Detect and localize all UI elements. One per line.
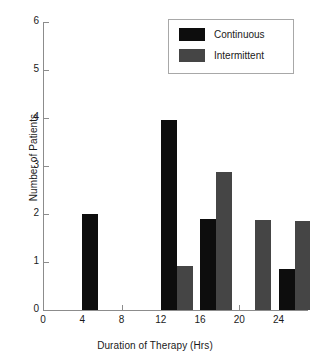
y-tick: 3 <box>44 166 49 167</box>
y-tick-label: 5 <box>33 63 39 74</box>
legend-item-continuous: Continuous <box>179 28 265 41</box>
y-tick: 2 <box>44 214 49 215</box>
legend-swatch-intermittent <box>179 49 205 62</box>
x-tick-label: 12 <box>146 314 176 325</box>
bar <box>200 219 216 310</box>
legend: Continuous Intermittent <box>168 19 294 74</box>
legend-label-intermittent: Intermittent <box>214 50 264 61</box>
x-tick <box>122 305 123 310</box>
bar <box>216 172 232 310</box>
y-tick: 4 <box>44 118 49 119</box>
x-tick-label: 16 <box>185 314 215 325</box>
x-tick-label: 20 <box>224 314 254 325</box>
x-tick-label: 4 <box>67 314 97 325</box>
x-tick-label: 24 <box>264 314 294 325</box>
y-tick-label: 4 <box>33 111 39 122</box>
bar <box>82 214 98 310</box>
bar-chart: Number of Patients Duration of Therapy (… <box>0 0 310 363</box>
legend-swatch-continuous <box>179 28 205 41</box>
x-tick <box>239 305 240 310</box>
x-tick <box>43 305 44 310</box>
legend-label-continuous: Continuous <box>214 29 265 40</box>
x-axis-line <box>43 310 308 311</box>
bar <box>295 221 310 310</box>
x-tick-label: 0 <box>28 314 58 325</box>
y-tick-label: 6 <box>33 15 39 26</box>
legend-item-intermittent: Intermittent <box>179 49 264 62</box>
y-tick-label: 1 <box>33 255 39 266</box>
bar <box>161 120 177 310</box>
y-tick: 0 <box>44 310 49 311</box>
y-tick: 6 <box>44 22 49 23</box>
x-axis-label: Duration of Therapy (Hrs) <box>0 340 310 351</box>
bar <box>177 266 193 310</box>
bar <box>279 269 295 310</box>
bar <box>255 220 271 310</box>
y-tick-label: 3 <box>33 159 39 170</box>
x-tick-label: 8 <box>107 314 137 325</box>
y-tick-label: 0 <box>33 303 39 314</box>
y-tick: 5 <box>44 70 49 71</box>
y-tick: 1 <box>44 262 49 263</box>
y-tick-label: 2 <box>33 207 39 218</box>
